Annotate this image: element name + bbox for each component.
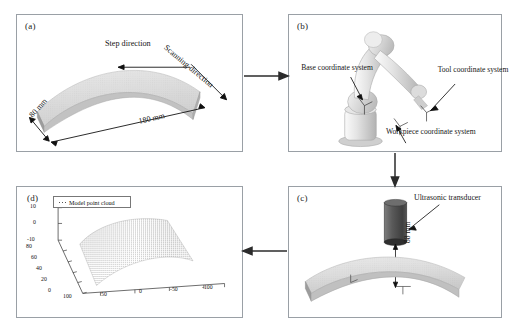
legend-marker-icon [57,200,66,205]
workpiece-coordinate-label: Workpiece coordinate system [386,128,476,137]
y-tick-60: 60 [31,254,37,260]
z-tick-0: 0 [33,219,36,225]
arrow-c-to-d [243,247,287,254]
y-axis-ticks [63,250,87,293]
model-point-cloud-surface [80,219,193,286]
y-axis [58,240,83,293]
arrow-b-to-c [391,153,398,186]
tool-coordinate-label: Tool coordinate system [437,66,509,75]
x-tick-100: 100 [63,293,72,299]
chart-legend: Model point cloud [53,196,131,208]
z-tick-neg10: -10 [27,236,35,242]
y-tick-20: 20 [41,276,47,282]
ultrasonic-transducer-label: Ultrasonic transducer [414,194,481,203]
standoff-distance-label: 88 mm [404,222,413,243]
y-tick-80: 80 [26,243,32,249]
x-tick-neg100: -100 [202,284,213,290]
x-tick-50: 50 [101,291,107,297]
y-tick-0: 0 [48,287,51,293]
panel-c-graphic [289,187,501,317]
robot-tool-flange [414,96,428,110]
x-tick-0: 0 [139,288,142,294]
x-tick-neg50: -50 [170,286,178,292]
step-direction-arrow [118,65,190,70]
y-tick-40: 40 [36,265,42,271]
legend-label: Model point cloud [69,199,115,206]
tool-label-leader [430,84,455,111]
transducer-label-leader [409,205,440,230]
base-coordinate-label: Base coordinate system [300,64,374,73]
step-direction-label: Step direction [105,39,151,48]
z-axis-ticks [58,208,62,241]
figure-root: (a) [0,0,516,333]
panel-c-transducer: (c) [288,186,502,318]
arrow-a-to-b [244,72,288,79]
z-tick-10: 10 [30,203,36,209]
